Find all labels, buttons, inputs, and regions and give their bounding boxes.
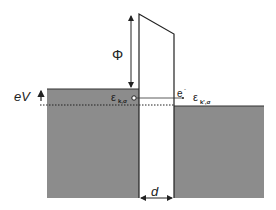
tunnel-barrier <box>139 14 174 198</box>
phi-label: Φ <box>112 47 123 63</box>
eps-right-subscript: k',σ <box>200 99 211 105</box>
electron-charge: - <box>184 86 186 92</box>
tunneling-diagram: Φ eV ε k,σ e - ε k',σ d <box>0 0 276 210</box>
ev-label: eV <box>14 89 31 104</box>
eps-left-subscript: k,σ <box>118 98 127 104</box>
d-label: d <box>151 184 159 199</box>
electron-label: e <box>177 88 183 99</box>
diagram-canvas: Φ eV ε k,σ e - ε k',σ d <box>0 0 276 210</box>
electron-state-left <box>132 96 136 100</box>
eps-right-label: ε <box>193 91 198 103</box>
right-electrode <box>174 106 264 198</box>
eps-left-label: ε <box>111 91 116 103</box>
